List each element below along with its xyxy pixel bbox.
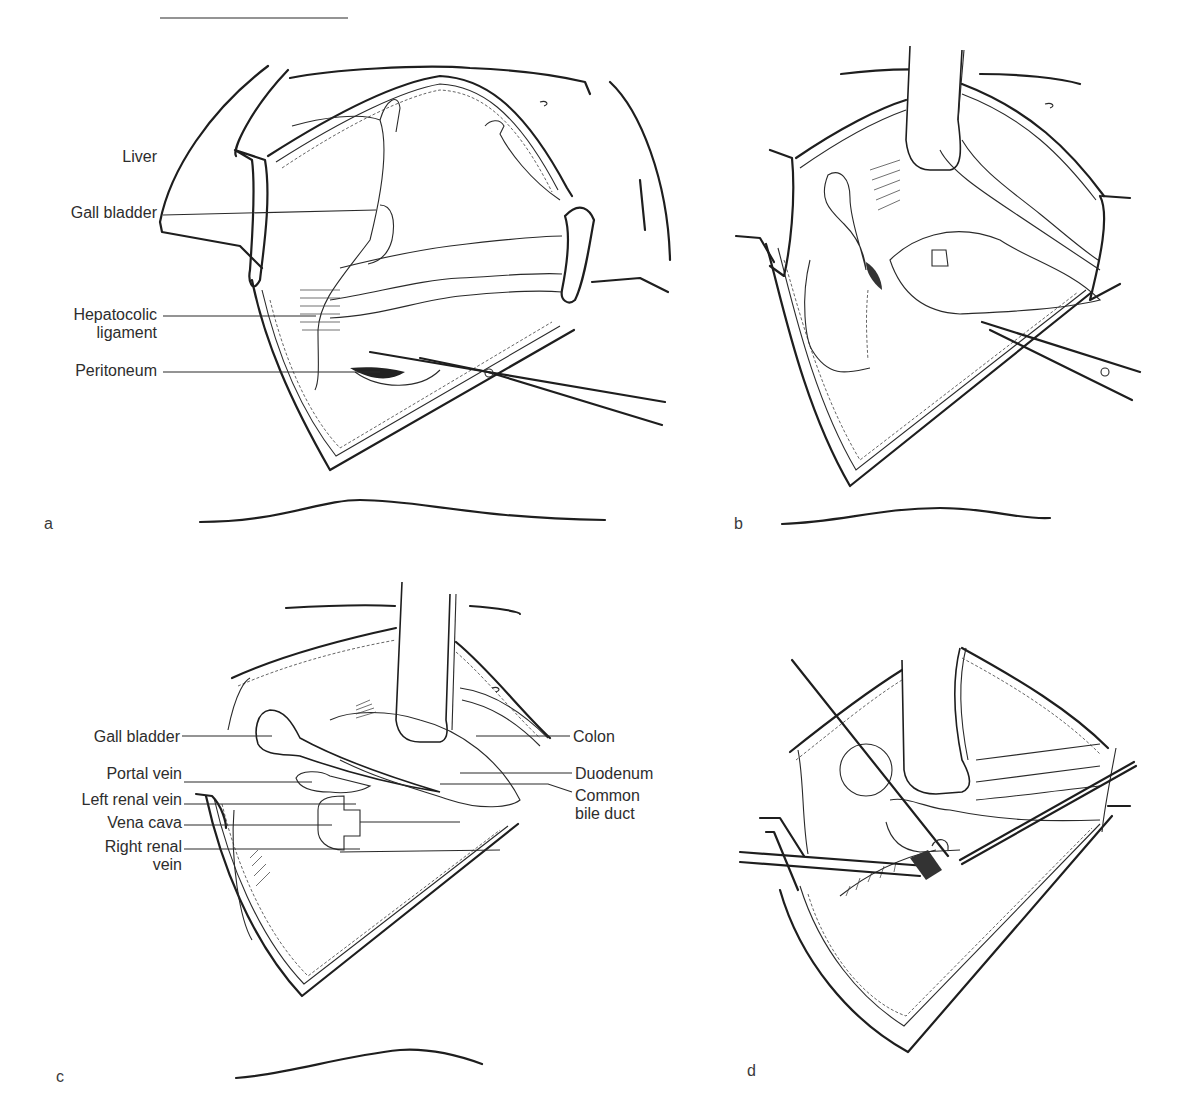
label-liver: Liver — [122, 148, 157, 166]
label-common-bile-duct: Common bile duct — [575, 787, 640, 823]
label-portal-vein: Portal vein — [106, 765, 182, 783]
label-colon: Colon — [573, 728, 615, 746]
panel-c: Gall bladder Portal vein Left renal vein… — [0, 560, 700, 1116]
label-gall-bladder-a: Gall bladder — [71, 204, 157, 222]
panel-letter-c: c — [56, 1068, 64, 1086]
panel-a-illustration — [0, 0, 700, 560]
panel-b-illustration — [700, 0, 1181, 560]
label-duodenum: Duodenum — [575, 765, 653, 783]
panel-letter-a: a — [44, 515, 53, 533]
label-left-renal-vein: Left renal vein — [81, 791, 182, 809]
panel-d: d — [700, 560, 1181, 1116]
label-peritoneum: Peritoneum — [75, 362, 157, 380]
label-gall-bladder-c: Gall bladder — [94, 728, 180, 746]
panel-b: b — [700, 0, 1181, 560]
panel-d-illustration — [700, 560, 1181, 1116]
label-hepatocolic-ligament: Hepatocolic ligament — [73, 306, 157, 342]
label-right-renal-vein: Right renal vein — [105, 838, 182, 874]
label-vena-cava: Vena cava — [107, 814, 182, 832]
panel-a: Liver Gall bladder Hepatocolic ligament … — [0, 0, 700, 560]
panel-letter-d: d — [747, 1062, 756, 1080]
panel-letter-b: b — [734, 515, 743, 533]
